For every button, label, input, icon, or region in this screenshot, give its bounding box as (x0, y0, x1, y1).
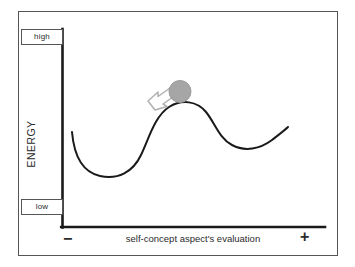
y-axis-title: ENERGY (25, 99, 37, 189)
x-axis-plus-sign: + (300, 229, 309, 245)
x-axis-title: self-concept aspect's evaluation (62, 233, 324, 244)
energy-landscape-figure: high low ENERGY − self-concept aspect's … (0, 0, 355, 267)
y-tick-high: high (21, 29, 63, 45)
y-tick-low-label: low (36, 203, 49, 211)
energy-curve (72, 102, 288, 177)
y-tick-high-label: high (34, 33, 50, 41)
ball-marker (169, 81, 191, 103)
y-tick-low: low (21, 199, 63, 215)
